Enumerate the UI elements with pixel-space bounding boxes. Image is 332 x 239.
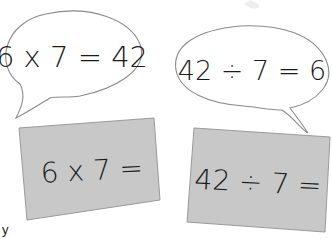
card-left: 6 x 7 = bbox=[19, 118, 160, 220]
background-smudge bbox=[244, 0, 259, 9]
card-left-prompt: 6 x 7 = bbox=[40, 151, 144, 189]
bubble-right-equation: 42 ÷ 7 = 6 bbox=[178, 55, 326, 86]
card-right: 42 ÷ 7 = bbox=[187, 128, 330, 232]
speech-bubble-left: 6 x 7 = 42 bbox=[0, 11, 148, 118]
cropped-edge-text: y bbox=[2, 222, 9, 237]
illustration: 6 x 7 = 42 42 ÷ 7 = 6 6 x 7 = 42 ÷ 7 = bbox=[0, 0, 332, 239]
bubble-left-equation: 6 x 7 = 42 bbox=[0, 40, 148, 74]
speech-bubble-right: 42 ÷ 7 = 6 bbox=[176, 26, 329, 133]
card-right-prompt: 42 ÷ 7 = bbox=[194, 163, 323, 203]
